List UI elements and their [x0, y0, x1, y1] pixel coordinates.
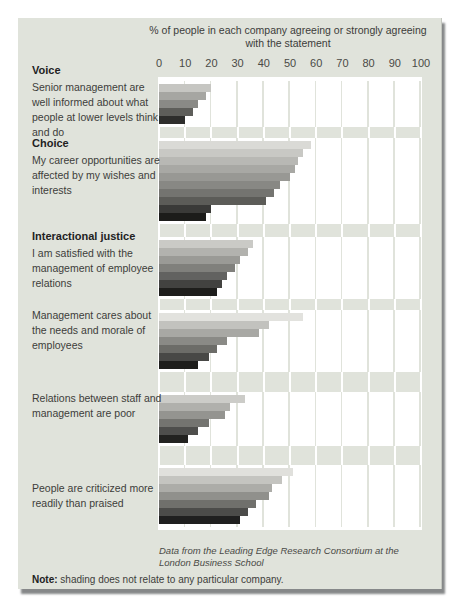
bar [159, 181, 280, 189]
bar [159, 288, 217, 296]
group-row [159, 237, 421, 299]
bar [159, 197, 266, 205]
bar [159, 116, 185, 124]
bar [159, 395, 245, 403]
bar [159, 353, 209, 361]
bar [159, 361, 198, 369]
group-label: People are criticized more readily than … [32, 481, 162, 511]
bar [159, 141, 311, 149]
shading-note: Note: shading does not relate to any par… [32, 574, 284, 585]
source-note: Data from the Leading Edge Research Cons… [159, 545, 411, 569]
bar [159, 476, 282, 484]
group-label: Interactional justiceI am satisfied with… [32, 230, 162, 291]
group-statement: Relations between staff and management a… [32, 391, 162, 421]
bar [159, 345, 217, 353]
x-axis-tick-label: 100 [406, 57, 436, 69]
group-row [159, 138, 421, 224]
bar [159, 403, 230, 411]
shading-note-text: shading does not relate to any particula… [58, 574, 284, 585]
bar [159, 427, 198, 435]
bar [159, 272, 227, 280]
bar [159, 213, 206, 221]
bar [159, 165, 295, 173]
group-statement: My career opportunities are affected by … [32, 153, 162, 198]
group-statement: People are criticized more readily than … [32, 481, 162, 511]
bar [159, 205, 211, 213]
group-label: ChoiceMy career opportunities are affect… [32, 137, 162, 198]
bar [159, 264, 235, 272]
chart-title: % of people in each company agreeing or … [140, 24, 436, 50]
bar [159, 108, 193, 116]
bar [159, 240, 253, 248]
bar [159, 516, 240, 524]
screenshot-canvas: % of people in each company agreeing or … [0, 0, 459, 607]
group-label: Relations between staff and management a… [32, 391, 162, 421]
bar [159, 508, 248, 516]
group-label: VoiceSenior management are well informed… [32, 64, 162, 140]
bar [159, 280, 222, 288]
bar [159, 411, 225, 419]
group-section-header: Interactional justice [32, 230, 162, 242]
bar [159, 189, 274, 197]
group-row [159, 81, 421, 127]
bar [159, 435, 188, 443]
bar [159, 157, 298, 165]
shading-note-prefix: Note: [32, 574, 58, 585]
bar [159, 329, 259, 337]
chart-panel: % of people in each company agreeing or … [18, 18, 442, 589]
group-section-header: Choice [32, 137, 162, 149]
group-statement: Management cares about the needs and mor… [32, 308, 162, 353]
group-statement: Senior management are well informed abou… [32, 80, 162, 140]
bar [159, 419, 209, 427]
chart-title-line2: with the statement [140, 37, 436, 50]
bar [159, 92, 206, 100]
bar [159, 500, 256, 508]
group-label: Management cares about the needs and mor… [32, 308, 162, 353]
bar [159, 337, 227, 345]
bar [159, 149, 303, 157]
group-section-header: Voice [32, 64, 162, 76]
bar [159, 100, 198, 108]
bar [159, 321, 269, 329]
bar [159, 492, 269, 500]
bar [159, 484, 272, 492]
chart-title-line1: % of people in each company agreeing or … [140, 24, 436, 37]
bar [159, 468, 293, 476]
bar [159, 84, 211, 92]
group-statement: I am satisfied with the management of em… [32, 246, 162, 291]
bar [159, 173, 290, 181]
group-row [159, 392, 421, 446]
bar [159, 248, 248, 256]
bar [159, 256, 240, 264]
group-row [159, 465, 421, 527]
bar [159, 313, 303, 321]
group-row [159, 310, 421, 372]
